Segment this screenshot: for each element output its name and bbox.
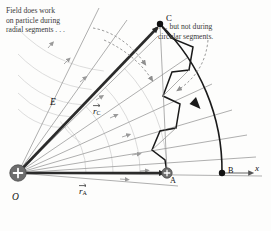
label-vector-r-a: rA [79,180,87,198]
staircase-radial-connectors [152,24,189,173]
physics-diagram: Field does work on particle during radia… [0,0,271,231]
label-field-e: E [50,97,56,107]
vector-r-c [18,28,157,173]
charge-origin [10,165,26,181]
vector-r-a-subscript: A [83,190,87,196]
label-axis-x: x [255,163,259,173]
vector-overbar-icon [79,183,87,187]
point-b-dot [219,170,225,176]
vector-overbar-icon [93,103,101,107]
arc-arrowhead [190,97,201,109]
field-line [18,58,187,173]
right-annotation-text: . . . but not during circular segments. [158,22,213,41]
label-point-c: C [166,13,172,23]
field-line [18,84,212,173]
field-line [18,135,247,173]
pointer-left-note [93,28,145,64]
label-origin: O [12,192,19,202]
label-vector-r-c: rC [93,100,101,118]
label-point-a: A [170,176,176,185]
left-annotation-text: Field does work on particle during radia… [6,6,65,35]
staircase-path [152,24,193,173]
label-point-b: B [228,166,233,175]
vector-r-c-subscript: C [97,110,101,116]
